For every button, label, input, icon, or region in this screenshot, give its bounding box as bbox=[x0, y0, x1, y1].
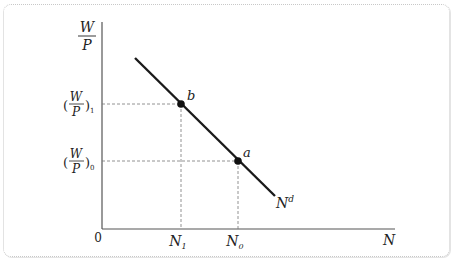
y-axis-label: W P bbox=[78, 19, 96, 53]
svg-text:(: ( bbox=[63, 155, 68, 170]
svg-text:1: 1 bbox=[90, 107, 94, 115]
svg-text:P: P bbox=[81, 37, 92, 53]
x-tick-label-n1: N1 bbox=[168, 233, 186, 251]
curve-label: Nd bbox=[275, 194, 294, 211]
svg-text:W: W bbox=[70, 90, 84, 104]
labor-demand-curve bbox=[135, 58, 275, 196]
svg-text:P: P bbox=[71, 105, 81, 119]
x-tick-label-n0: N0 bbox=[225, 233, 243, 251]
y-tick-label-0: ( W P ) 0 bbox=[63, 147, 94, 176]
point-a bbox=[234, 157, 242, 165]
svg-text:(: ( bbox=[63, 98, 68, 113]
y-tick-label-1: ( W P ) 1 bbox=[63, 90, 94, 119]
x-axis-label: N bbox=[382, 232, 396, 248]
svg-text:W: W bbox=[70, 147, 84, 161]
svg-text:P: P bbox=[71, 162, 81, 176]
origin-label: 0 bbox=[94, 231, 102, 245]
svg-text:0: 0 bbox=[90, 164, 94, 172]
point-b bbox=[177, 100, 185, 108]
labor-demand-diagram: W P Nd b a ( W P ) 1 ( W P ) 0 0 N1 N0 N bbox=[0, 0, 456, 262]
point-a-label: a bbox=[243, 145, 251, 160]
guide-lines bbox=[102, 104, 238, 229]
svg-text:W: W bbox=[80, 19, 96, 35]
point-b-label: b bbox=[187, 88, 195, 103]
